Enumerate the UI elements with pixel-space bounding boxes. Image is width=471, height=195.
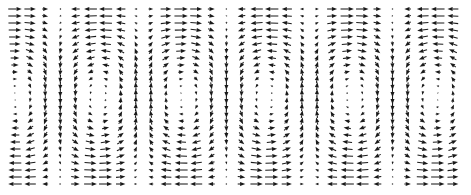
vector-arrow-shaft	[100, 149, 105, 150]
vector-arrow-head	[191, 154, 196, 158]
vector-arrow-head	[390, 63, 394, 68]
vector-arrow-head	[60, 8, 61, 10]
vector-arrow-head	[437, 106, 439, 108]
vector-arrow-head	[240, 70, 244, 76]
vector-arrow-head	[134, 68, 138, 73]
vector-arrow	[420, 62, 426, 66]
vector-arrow-shaft	[257, 50, 261, 51]
vector-arrow-shaft	[86, 134, 89, 135]
vector-arrow	[104, 78, 108, 81]
vector-arrow	[225, 147, 228, 152]
vector-arrow-head	[134, 176, 137, 178]
vector-arrow	[300, 169, 304, 172]
vector-arrow	[209, 139, 214, 144]
vector-arrow-head	[225, 49, 229, 54]
vector-arrow-head	[119, 76, 123, 82]
vector-arrow	[225, 42, 228, 47]
vector-arrow-head	[343, 133, 348, 137]
vector-arrow	[161, 175, 172, 179]
vector-arrow-head	[224, 120, 228, 125]
vector-arrow	[405, 111, 409, 118]
vector-arrow	[99, 21, 112, 25]
vector-arrow-shaft	[454, 51, 457, 52]
vector-arrow-shaft	[243, 55, 244, 56]
vector-arrow	[374, 21, 382, 25]
vector-arrow-head	[359, 69, 364, 73]
vector-arrow	[43, 96, 47, 104]
vector-arrow	[451, 77, 455, 82]
vector-arrow-head	[391, 35, 394, 39]
vector-arrow-shaft	[374, 35, 376, 36]
vector-arrow-head	[376, 105, 380, 111]
vector-arrow-head	[422, 84, 425, 88]
vector-arrow-head	[210, 7, 215, 11]
vector-arrow	[72, 42, 79, 46]
vector-arrow-shaft	[150, 73, 151, 75]
vector-arrow	[300, 8, 304, 11]
vector-arrow-head	[451, 140, 457, 144]
vector-arrow-head	[89, 84, 92, 87]
vector-arrow-head	[30, 21, 35, 25]
vector-arrow-shaft	[316, 67, 317, 69]
vector-arrow	[119, 83, 123, 89]
vector-arrow	[134, 68, 138, 75]
vector-arrow	[86, 49, 95, 53]
vector-arrow-head	[116, 14, 121, 18]
vector-arrow-head	[375, 42, 380, 46]
vector-arrow	[58, 110, 62, 118]
vector-arrow	[194, 112, 198, 116]
vector-arrow	[343, 133, 351, 137]
vector-arrow-shaft	[74, 118, 75, 119]
vector-arrow-head	[437, 85, 439, 87]
vector-arrow	[175, 161, 188, 165]
vector-arrow-head	[447, 14, 452, 18]
vector-arrow	[191, 35, 202, 39]
vector-arrow	[238, 182, 246, 186]
vector-arrow-head	[58, 154, 61, 158]
vector-arrow	[239, 118, 243, 124]
vector-arrow-head	[8, 168, 13, 172]
vector-arrow-head	[315, 75, 319, 80]
vector-arrow-head	[238, 7, 243, 11]
vector-arrow-head	[182, 35, 187, 39]
vector-arrow-head	[375, 84, 379, 90]
vector-arrow-head	[431, 7, 436, 11]
vector-arrow-head	[285, 90, 289, 95]
vector-arrow-head	[453, 175, 458, 179]
vector-arrow-head	[374, 161, 380, 165]
vector-arrow	[175, 35, 187, 39]
vector-arrow-head	[28, 84, 31, 88]
vector-arrow	[84, 175, 97, 179]
vector-arrow-head	[448, 28, 453, 32]
vector-arrow-head	[17, 7, 22, 11]
vector-arrow-head	[179, 63, 184, 67]
vector-arrow-head	[265, 14, 270, 18]
vector-arrow-shaft	[378, 125, 379, 127]
vector-arrow-head	[315, 110, 319, 115]
vector-arrow-shaft	[422, 23, 428, 24]
vector-arrow	[342, 49, 352, 53]
vector-arrow-head	[149, 89, 153, 94]
vector-arrow	[73, 118, 77, 124]
vector-arrow-shaft	[167, 136, 169, 137]
vector-arrow-head	[376, 98, 380, 103]
vector-arrow-shaft	[91, 57, 94, 58]
vector-arrow-shaft	[101, 142, 105, 143]
vector-arrow	[134, 96, 138, 104]
vector-arrow-head	[418, 42, 424, 46]
vector-arrow-shaft	[121, 23, 125, 24]
vector-arrow-shaft	[73, 125, 74, 126]
vector-arrow	[330, 118, 335, 123]
vector-arrow	[42, 167, 48, 171]
vector-arrow	[8, 182, 22, 186]
vector-arrow-head	[273, 168, 278, 172]
vector-arrow	[374, 168, 382, 172]
vector-arrow-head	[15, 49, 20, 53]
vector-arrow-shaft	[118, 129, 119, 130]
vector-arrow-head	[100, 42, 105, 46]
vector-arrow	[134, 103, 138, 111]
vector-arrow-shaft	[405, 147, 406, 148]
vector-arrow-head	[101, 56, 106, 60]
vector-arrow	[375, 69, 379, 75]
vector-arrow-shaft	[71, 162, 74, 163]
